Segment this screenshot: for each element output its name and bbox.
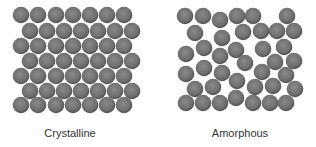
particle: [245, 8, 262, 25]
particle: [178, 66, 195, 83]
particle: [229, 8, 246, 25]
particle: [245, 95, 262, 112]
particle: [13, 38, 30, 55]
particle: [278, 95, 295, 112]
particle: [99, 38, 116, 55]
particle: [82, 68, 99, 85]
particle: [235, 24, 252, 41]
particle: [107, 23, 124, 40]
particle: [90, 53, 107, 70]
particle: [178, 95, 195, 112]
particle: [39, 83, 56, 100]
particle: [196, 60, 213, 77]
particle: [187, 25, 204, 42]
particle: [116, 38, 133, 55]
particle: [56, 23, 73, 40]
particle: [237, 55, 254, 72]
particle: [287, 81, 304, 98]
particle: [73, 53, 90, 70]
particle: [48, 97, 65, 114]
particle: [13, 97, 30, 114]
particle: [13, 7, 30, 24]
particle: [48, 38, 65, 55]
particle: [90, 83, 107, 100]
particle: [99, 68, 116, 85]
particle: [48, 68, 65, 85]
particle: [178, 46, 195, 63]
particle: [279, 8, 296, 25]
particle: [124, 53, 141, 70]
particle: [229, 73, 246, 90]
particle: [253, 23, 270, 40]
particle: [116, 7, 133, 24]
particle: [228, 90, 245, 107]
particle: [82, 97, 99, 114]
particle: [286, 23, 303, 40]
particle: [212, 48, 229, 65]
particle: [22, 23, 39, 40]
particle: [195, 95, 212, 112]
particle: [116, 68, 133, 85]
particle: [65, 7, 82, 24]
particle: [187, 81, 204, 98]
particle-diagram: [0, 0, 316, 120]
particle: [56, 83, 73, 100]
particle: [39, 53, 56, 70]
particle: [30, 97, 47, 114]
particle: [48, 7, 65, 24]
particle: [205, 79, 222, 96]
particle: [177, 8, 194, 25]
particle: [196, 40, 213, 57]
particle: [212, 12, 229, 29]
particle: [212, 95, 229, 112]
particle: [214, 65, 231, 82]
particle: [82, 7, 99, 24]
particle: [73, 83, 90, 100]
particle: [107, 53, 124, 70]
particle: [124, 23, 141, 40]
particle: [65, 68, 82, 85]
particle: [30, 38, 47, 55]
particle: [90, 23, 107, 40]
particle: [269, 23, 286, 40]
particle: [99, 7, 116, 24]
particle: [262, 95, 279, 112]
particle: [65, 38, 82, 55]
particle: [65, 97, 82, 114]
amorphous-particles: [177, 8, 304, 112]
particle: [22, 83, 39, 100]
particle: [73, 23, 90, 40]
particle: [267, 54, 284, 71]
crystalline-vs-amorphous-diagram: Crystalline Amorphous: [0, 0, 316, 147]
particle: [30, 7, 47, 24]
particle: [286, 53, 303, 70]
crystalline-label: Crystalline: [10, 126, 130, 140]
particle: [255, 41, 272, 58]
particle: [265, 78, 282, 95]
particle: [124, 83, 141, 100]
particle: [107, 83, 124, 100]
particle: [82, 38, 99, 55]
particle: [278, 67, 295, 84]
particle: [116, 97, 133, 114]
particle: [195, 8, 212, 25]
particle: [214, 30, 231, 47]
particle: [22, 53, 39, 70]
crystalline-particles: [13, 7, 141, 114]
particle: [13, 68, 30, 85]
particle: [39, 23, 56, 40]
particle: [56, 53, 73, 70]
particle: [276, 39, 293, 56]
particle: [247, 79, 264, 96]
particle: [99, 97, 116, 114]
amorphous-label: Amorphous: [180, 126, 300, 140]
particle: [254, 64, 271, 81]
particle: [30, 68, 47, 85]
